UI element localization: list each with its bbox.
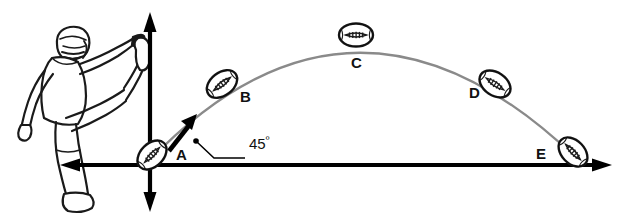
ball-label-d: D	[469, 85, 480, 100]
axis-arrow-left	[60, 159, 80, 172]
football-d	[474, 65, 515, 103]
ball-label-c: C	[351, 55, 362, 70]
football-b	[202, 64, 243, 103]
projectile-motion-diagram: A B C D E 45º	[0, 0, 631, 220]
angle-leader-line	[193, 138, 245, 158]
axis-arrow-up	[144, 12, 157, 32]
football-c	[339, 24, 373, 47]
ball-label-a: A	[176, 147, 187, 162]
degree-symbol: º	[266, 134, 270, 145]
trajectory-path	[150, 53, 575, 160]
axis-arrow-down	[144, 192, 157, 212]
angle-label: 45º	[249, 135, 269, 151]
axis-arrow-right	[592, 159, 612, 172]
football-kicker	[18, 27, 150, 212]
angle-value: 45	[249, 135, 266, 152]
diagram-canvas	[0, 0, 631, 220]
football-a	[132, 135, 172, 175]
coordinate-axes	[68, 20, 604, 204]
ball-label-b: B	[240, 89, 251, 104]
ball-label-e: E	[536, 146, 546, 161]
